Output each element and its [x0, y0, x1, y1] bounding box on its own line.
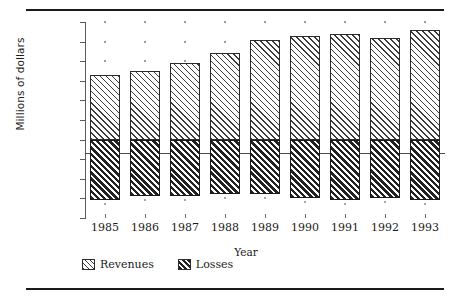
x-tick-mark — [345, 214, 346, 218]
x-tick-mark — [305, 214, 306, 218]
legend-swatch-revenues-icon — [82, 259, 95, 270]
y-tick-mark — [80, 218, 86, 219]
y-tick-mark — [80, 120, 86, 121]
x-tick-mark — [425, 214, 426, 218]
bar-losses — [170, 140, 200, 196]
bottom-divider-rule — [26, 288, 444, 290]
y-tick-mark — [80, 159, 86, 160]
bar-group — [90, 18, 120, 220]
bar-group — [130, 18, 160, 220]
top-divider-rule — [26, 9, 444, 11]
bar-dot-marker — [344, 203, 346, 205]
bar-losses — [90, 140, 120, 201]
bar-losses — [330, 140, 360, 201]
bar-group — [250, 18, 280, 220]
y-tick-mark — [80, 81, 86, 82]
bar-revenues — [170, 63, 200, 139]
y-tick-mark — [80, 22, 86, 23]
plot-area: 1500.01250.01000.0750.0500.0250.00.0(250… — [85, 18, 445, 220]
x-axis-title: Year — [196, 246, 296, 258]
legend-label-revenues: Revenues — [100, 258, 154, 271]
bar-dot-marker — [384, 201, 386, 203]
y-axis-title: Millions of dollars — [14, 19, 26, 149]
x-tick-mark — [385, 214, 386, 218]
bar-revenues — [290, 36, 320, 140]
x-tick-mark — [105, 214, 106, 218]
x-tick-mark — [225, 214, 226, 218]
bar-dot-marker — [104, 203, 106, 205]
x-tick-mark — [265, 214, 266, 218]
x-tick-mark — [145, 214, 146, 218]
chart-legend: Revenues Losses — [82, 258, 233, 271]
bar-revenues — [210, 53, 240, 139]
bar-dot-marker — [424, 203, 426, 205]
y-tick-mark — [80, 42, 86, 43]
bar-dot-marker — [264, 197, 266, 199]
bar-losses — [290, 140, 320, 199]
y-tick-mark — [80, 61, 86, 62]
y-tick-mark — [80, 179, 86, 180]
bar-dot-marker — [144, 199, 146, 201]
y-tick-mark — [80, 198, 86, 199]
y-tick-mark — [80, 140, 86, 141]
bar-losses — [130, 140, 160, 196]
bar-revenues — [90, 75, 120, 140]
bar-group — [410, 18, 440, 220]
bar-losses — [250, 140, 280, 195]
bar-group — [210, 18, 240, 220]
legend-item-losses: Losses — [178, 258, 233, 271]
y-tick-mark — [80, 100, 86, 101]
bar-losses — [370, 140, 400, 199]
bar-group — [370, 18, 400, 220]
bar-dot-marker — [184, 199, 186, 201]
bar-losses — [210, 140, 240, 195]
bar-revenues — [370, 38, 400, 140]
bar-revenues — [250, 40, 280, 140]
bar-group — [170, 18, 200, 220]
bar-revenues — [410, 30, 440, 140]
legend-item-revenues: Revenues — [82, 258, 154, 271]
legend-swatch-losses-icon — [178, 259, 191, 270]
x-tick-label: 1993 — [395, 221, 455, 234]
chart-figure: Millions of dollars Year 1500.01250.0100… — [0, 0, 470, 299]
bar-dot-marker — [304, 201, 306, 203]
legend-label-losses: Losses — [196, 258, 233, 271]
bar-dot-marker — [224, 197, 226, 199]
bar-revenues — [130, 71, 160, 140]
bar-group — [330, 18, 360, 220]
bar-losses — [410, 140, 440, 201]
bar-group — [290, 18, 320, 220]
bar-revenues — [330, 34, 360, 140]
x-tick-mark — [185, 214, 186, 218]
